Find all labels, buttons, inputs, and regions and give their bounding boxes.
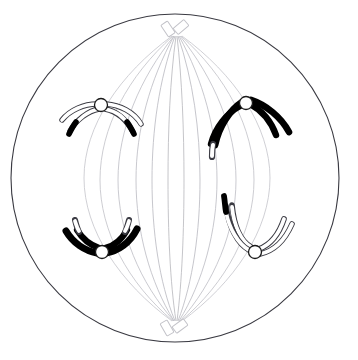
cell-diagram-canvas: [0, 0, 358, 360]
centromere: [96, 246, 109, 259]
centromere: [249, 246, 262, 259]
chromatid-tip-black: [224, 196, 226, 212]
centromere: [95, 99, 108, 112]
centromere: [240, 97, 253, 110]
chromatid-tip-white-fill: [212, 145, 213, 156]
cell-membrane: [11, 14, 339, 342]
cell-division-diagram: Cell in anaphase / telophase of mitosis …: [0, 0, 358, 360]
